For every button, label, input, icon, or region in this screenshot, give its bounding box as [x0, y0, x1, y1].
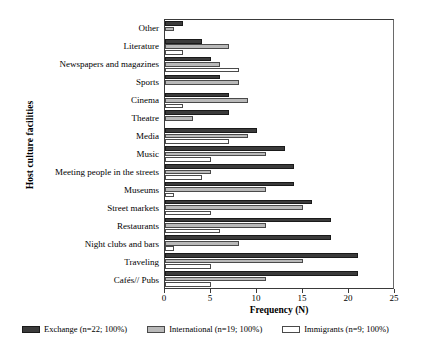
- bar-immigrants: [165, 193, 174, 198]
- x-axis-tick-label: 20: [344, 293, 353, 303]
- bar-immigrants: [165, 246, 174, 251]
- bar-international: [165, 205, 303, 210]
- bar-row: [165, 27, 393, 32]
- x-axis-tick-label: 25: [390, 293, 399, 303]
- bar-row: [165, 241, 393, 246]
- bar-immigrants: [165, 50, 183, 55]
- bar-immigrants: [165, 139, 229, 144]
- bar-immigrants: [165, 175, 202, 180]
- bar-international: [165, 62, 220, 67]
- bar-row: [165, 253, 393, 258]
- y-axis-category-label: Museums: [18, 181, 162, 199]
- bar-row: [165, 264, 393, 269]
- bar-row: [165, 121, 393, 126]
- bar-row: [165, 21, 393, 26]
- y-axis-category-label: Traveling: [18, 253, 162, 271]
- bar-row: [165, 80, 393, 85]
- bar-row: [165, 223, 393, 228]
- legend-swatch-icon: [147, 326, 165, 333]
- bar-row: [165, 68, 393, 73]
- y-axis-category-label: Newspapers and magazines: [18, 55, 162, 73]
- y-axis-category-label: Literature: [18, 37, 162, 55]
- bar-row: [165, 218, 393, 223]
- bar-international: [165, 44, 229, 49]
- bar-group: [165, 181, 393, 199]
- y-axis-category-label: Music: [18, 145, 162, 163]
- bar-row: [165, 282, 393, 287]
- bar-international: [165, 170, 211, 175]
- bar-row: [165, 44, 393, 49]
- bar-row: [165, 146, 393, 151]
- bar-international: [165, 98, 248, 103]
- bar-exchange: [165, 93, 229, 98]
- legend-item: Exchange (n=22; 100%): [22, 324, 127, 334]
- bar-row: [165, 164, 393, 169]
- bar-immigrants: [165, 68, 239, 73]
- y-axis-category-label: Street markets: [18, 199, 162, 217]
- bar-row: [165, 187, 393, 192]
- y-axis-category-label: Night clubs and bars: [18, 235, 162, 253]
- bar-group: [165, 145, 393, 163]
- bar-group: [165, 252, 393, 270]
- y-axis-category-labels: OtherLiteratureNewspapers and magazinesS…: [18, 19, 162, 289]
- y-axis-category-label: Cinema: [18, 91, 162, 109]
- bar-group: [165, 270, 393, 288]
- bar-immigrants: [165, 157, 211, 162]
- bar-international: [165, 223, 266, 228]
- bar-exchange: [165, 182, 294, 187]
- bar-row: [165, 277, 393, 282]
- bar-exchange: [165, 200, 312, 205]
- bar-international: [165, 187, 266, 192]
- bar-row: [165, 200, 393, 205]
- bar-row: [165, 32, 393, 37]
- bar-row: [165, 39, 393, 44]
- bar-exchange: [165, 21, 183, 26]
- bar-immigrants: [165, 264, 211, 269]
- bar-chart-figure: Host culture facilities OtherLiteratureN…: [0, 0, 425, 350]
- bar-group: [165, 74, 393, 92]
- bar-international: [165, 80, 239, 85]
- y-axis-category-label: Sports: [18, 73, 162, 91]
- bar-exchange: [165, 128, 257, 133]
- y-axis-category-label: Other: [18, 19, 162, 37]
- bar-group: [165, 56, 393, 74]
- bar-international: [165, 134, 248, 139]
- bar-groups: [165, 20, 393, 288]
- x-axis-tick-label: 10: [252, 293, 261, 303]
- plot-area: [164, 19, 394, 289]
- bar-group: [165, 234, 393, 252]
- bar-international: [165, 116, 193, 121]
- legend-label: Exchange (n=22; 100%): [44, 324, 127, 334]
- bar-row: [165, 62, 393, 67]
- bar-row: [165, 50, 393, 55]
- bar-row: [165, 134, 393, 139]
- bar-row: [165, 86, 393, 91]
- bar-international: [165, 152, 266, 157]
- bar-row: [165, 128, 393, 133]
- bar-international: [165, 27, 174, 32]
- bar-immigrants: [165, 229, 220, 234]
- x-axis-tick-label: 0: [162, 293, 167, 303]
- bar-row: [165, 205, 393, 210]
- bar-row: [165, 116, 393, 121]
- bar-row: [165, 259, 393, 264]
- bar-row: [165, 175, 393, 180]
- y-axis-category-label: Media: [18, 127, 162, 145]
- x-axis-tick-label: 15: [298, 293, 307, 303]
- legend-swatch-icon: [22, 326, 40, 333]
- bar-row: [165, 152, 393, 157]
- bar-row: [165, 93, 393, 98]
- bar-international: [165, 259, 303, 264]
- bar-exchange: [165, 57, 211, 62]
- bar-immigrants: [165, 104, 183, 109]
- bar-exchange: [165, 271, 358, 276]
- y-axis-category-label: Cafés// Pubs: [18, 271, 162, 289]
- y-axis-category-label: Theatre: [18, 109, 162, 127]
- bar-exchange: [165, 75, 220, 80]
- bar-exchange: [165, 253, 358, 258]
- bar-international: [165, 277, 266, 282]
- bar-row: [165, 98, 393, 103]
- bar-exchange: [165, 39, 202, 44]
- bar-group: [165, 216, 393, 234]
- bar-exchange: [165, 235, 331, 240]
